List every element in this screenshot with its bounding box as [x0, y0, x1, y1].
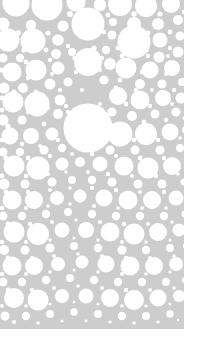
pattern-circle	[100, 286, 104, 290]
pattern-circle	[90, 276, 98, 284]
pattern-circle	[24, 206, 28, 210]
pattern-circle	[108, 122, 133, 147]
pattern-circle	[169, 257, 183, 271]
pattern-circle	[66, 110, 70, 114]
pattern-circle	[118, 26, 151, 59]
pattern-circle	[124, 288, 128, 292]
pattern-circle	[116, 46, 121, 51]
pattern-circle	[144, 272, 148, 276]
pattern-circle	[109, 18, 117, 26]
pattern-circle	[146, 31, 151, 36]
pattern-circle	[70, 308, 78, 316]
pattern-circle	[30, 256, 34, 260]
pattern-circle	[48, 58, 52, 62]
pattern-circle	[46, 204, 50, 208]
pattern-circle	[178, 78, 186, 86]
pattern-circle	[127, 111, 137, 121]
pattern-circle	[64, 104, 68, 108]
pattern-circle	[26, 156, 31, 161]
pattern-circle	[176, 172, 180, 176]
pattern-circle	[106, 13, 111, 18]
pattern-circle	[154, 174, 158, 178]
pattern-circle	[109, 87, 127, 105]
pattern-circle	[118, 78, 123, 83]
pattern-circle	[76, 256, 89, 269]
pattern-circle	[64, 104, 113, 153]
pattern-circle	[3, 155, 8, 160]
pattern-circle	[1, 312, 10, 321]
pattern-circle	[88, 210, 96, 218]
pattern-circle	[121, 30, 126, 35]
pattern-circle	[131, 146, 140, 155]
pattern-circle	[74, 30, 79, 35]
pattern-circle	[184, 188, 187, 191]
pattern-circle	[93, 157, 108, 172]
pattern-circle	[148, 256, 152, 260]
pattern-circle	[18, 212, 26, 220]
pattern-circle	[124, 290, 144, 310]
pattern-circle	[166, 244, 174, 252]
pattern-circle	[0, 272, 4, 276]
circle-packing-pattern	[0, 0, 199, 345]
pattern-circle	[162, 190, 166, 194]
pattern-circle	[155, 90, 171, 106]
pattern-circle	[22, 312, 30, 320]
pattern-circle	[64, 170, 68, 174]
pattern-circle	[100, 56, 104, 60]
pattern-circle	[166, 54, 170, 58]
pattern-circle	[172, 286, 176, 290]
pattern-circle	[23, 128, 39, 144]
pattern-circle	[144, 240, 148, 244]
pattern-circle	[18, 278, 26, 286]
pattern-circle	[51, 257, 65, 271]
pattern-circle	[66, 44, 70, 48]
pattern-circle	[182, 211, 189, 218]
pattern-circle	[131, 11, 137, 17]
pattern-circle	[75, 157, 85, 167]
pattern-circle	[18, 116, 27, 125]
pattern-circle	[36, 321, 40, 325]
pattern-circle	[92, 204, 96, 208]
pattern-circle	[50, 191, 64, 205]
pattern-circle	[6, 256, 11, 261]
pattern-circle	[52, 254, 56, 258]
pattern-circle	[130, 174, 134, 178]
pattern-circle	[48, 302, 51, 305]
pattern-circle	[16, 54, 24, 62]
pattern-circle	[12, 320, 16, 324]
pattern-circle	[55, 95, 66, 106]
pattern-circle	[16, 148, 24, 156]
pattern-circle	[181, 179, 188, 186]
pattern-circle	[73, 301, 76, 304]
pattern-circle	[98, 102, 102, 106]
pattern-circle	[162, 278, 170, 286]
pattern-circle	[64, 78, 73, 87]
pattern-circle	[42, 276, 50, 284]
pattern-circle	[68, 186, 72, 190]
pattern-circle	[169, 303, 172, 306]
pattern-circle	[183, 243, 189, 249]
pattern-circle	[38, 144, 42, 148]
pattern-circle	[134, 88, 138, 92]
pattern-circle	[108, 31, 117, 40]
pattern-circle	[168, 30, 173, 35]
pattern-circle	[30, 288, 34, 292]
pattern-circle	[28, 290, 49, 311]
pattern-circle	[120, 240, 124, 244]
pattern-circle	[18, 83, 28, 93]
pattern-circle	[42, 122, 47, 127]
pattern-circle	[46, 106, 50, 110]
pattern-circle	[27, 223, 49, 245]
pattern-circle	[158, 180, 167, 189]
pattern-circle	[3, 257, 22, 276]
pattern-circle	[168, 238, 171, 241]
pattern-circle	[80, 88, 84, 92]
pattern-circle	[145, 257, 163, 275]
pattern-circle	[20, 142, 24, 146]
pattern-circle	[85, 320, 88, 323]
pattern-circle	[169, 191, 184, 206]
pattern-circle	[120, 54, 125, 59]
pattern-circle	[26, 190, 30, 194]
pattern-circle	[24, 304, 28, 308]
pattern-circle	[134, 180, 143, 189]
